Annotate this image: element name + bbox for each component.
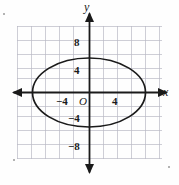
x-axis-left-arrow [12,88,22,97]
coordinate-plane-svg [0,0,179,185]
y-axis-down-arrow [85,164,94,174]
axis-lines [14,14,166,172]
x-tick-label-4: 4 [112,96,118,107]
y-tick-label-neg8: −8 [68,141,80,152]
y-tick-label-neg4: −4 [68,113,80,124]
y-axis-label: y [84,1,89,13]
scan-speck [168,166,170,168]
scan-speck [13,159,15,161]
origin-label: O [79,96,87,107]
x-axis-label: x [163,86,168,98]
x-tick-label-neg4: −4 [56,96,68,107]
scan-speck [3,13,5,15]
y-tick-label-4: 4 [74,65,80,76]
y-tick-label-8: 8 [74,37,80,48]
graph-figure: x y O −4 4 8 4 −4 −8 [0,0,179,185]
